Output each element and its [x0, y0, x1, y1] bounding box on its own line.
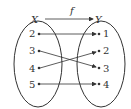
- mapping-arrow-4-to-2: [40, 52, 96, 68]
- codomain-point: [98, 67, 101, 70]
- codomain-element: 1: [103, 28, 109, 39]
- mapping-diagram: X Y f 2 3 4 5 1 2 3 4: [0, 0, 131, 109]
- domain-point: [38, 67, 41, 70]
- domain-element: 4: [29, 63, 35, 74]
- codomain-element: 4: [103, 79, 109, 90]
- domain-label: X: [30, 14, 39, 25]
- codomain-point: [98, 83, 101, 86]
- domain-element: 5: [29, 79, 35, 90]
- domain-element: 2: [29, 28, 35, 39]
- codomain-element: 3: [103, 63, 109, 74]
- codomain-point: [98, 50, 101, 53]
- codomain-element: 2: [103, 45, 109, 56]
- codomain-label: Y: [95, 14, 103, 25]
- mapping-arrow-3-to-3: [40, 51, 96, 67]
- codomain-point: [98, 33, 101, 36]
- domain-point: [38, 33, 41, 36]
- domain-element: 3: [29, 45, 35, 56]
- function-label: f: [69, 5, 76, 16]
- domain-point: [38, 50, 41, 53]
- domain-point: [38, 83, 41, 86]
